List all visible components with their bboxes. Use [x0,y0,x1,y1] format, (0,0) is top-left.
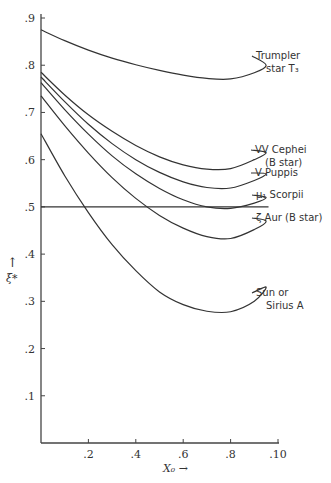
curve-label: V Puppis [255,167,298,178]
curve-4 [41,96,266,239]
curve-label: μ₁ Scorpii [256,189,304,200]
chart: .1.2.3.4.5.6.7.8.9 .2.4.6.8.10 Trumplers… [0,0,331,483]
y-tick-label: .9 [25,12,36,25]
curve-label: Sirius A [266,300,304,311]
curve-labels: Trumplerstar T₃VV Cephei(B star)V Puppis… [255,50,322,311]
y-axis-arrow: ↑ [7,255,18,270]
y-tick-label: .1 [25,390,36,403]
y-tick-label: .6 [25,154,36,167]
y-tick-label: .3 [25,295,36,308]
curve-label: ζ Aur (B star) [256,212,322,223]
curves [41,30,269,313]
curve-2 [41,77,266,189]
x-tick-label: .6 [178,448,189,461]
y-tick-label: .7 [25,106,36,119]
y-tick-label: .2 [25,343,36,356]
curve-label: star T₃ [266,63,299,74]
curve-0 [41,30,266,80]
curve-5 [41,134,266,313]
x-axis-title: X₀ → [162,462,188,475]
x-ticks: .2.4.6.8.10 [83,439,287,461]
curve-label: VV Cephei [255,144,307,155]
x-tick-label: .4 [131,448,142,461]
axes [41,14,279,443]
y-tick-label: .5 [25,201,36,214]
curve-label: Trumpler [255,50,301,61]
x-tick-label: .8 [225,448,236,461]
y-tick-label: .4 [25,248,36,261]
x-tick-label: .10 [269,448,287,461]
curve-label: Sun or [256,287,289,298]
y-tick-label: .8 [25,59,36,72]
y-axis-title: ξ* [6,272,18,285]
x-tick-label: .2 [83,448,94,461]
curve-3 [41,83,266,209]
